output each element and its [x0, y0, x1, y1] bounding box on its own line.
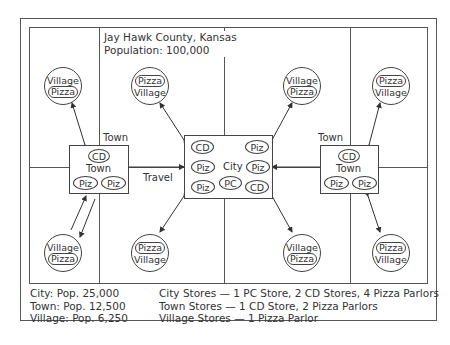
town-population: Town: Pop. 12,500 — [30, 300, 128, 313]
village-label: Village — [47, 75, 79, 86]
pizza-store: Pizza — [135, 242, 165, 254]
travel-label: Travel — [143, 172, 173, 184]
pizza-store: Piz — [246, 160, 270, 174]
village-population: Village: Pop. 6,250 — [30, 312, 128, 325]
village-label: Village — [47, 242, 79, 253]
cd-store: CD — [338, 149, 360, 163]
pizza-store: Piz — [191, 180, 215, 194]
cd-store: CD — [88, 149, 110, 163]
pizza-store: Piz — [191, 160, 215, 174]
pizza-store: Pizza — [135, 75, 165, 87]
pizza-store: Pizza — [48, 86, 78, 98]
village-bottom-left: Village Pizza — [44, 234, 82, 272]
town-left-outer-label: Town — [103, 132, 128, 144]
town-left: CD Town Piz Piz — [69, 145, 129, 194]
pizza-store: Piz — [352, 176, 377, 190]
city-population: City: Pop. 25,000 — [30, 287, 128, 300]
village-label: Village — [134, 254, 166, 265]
pizza-store: Pizza — [287, 253, 317, 265]
village-label: Village — [375, 87, 407, 98]
pizza-store: Piz — [245, 140, 269, 154]
city-label: City — [223, 161, 243, 173]
village-top-center-right: Village Pizza — [283, 67, 321, 105]
city: CD Piz Piz City Piz Piz PC CD — [184, 135, 273, 199]
town-right: CD Town Piz Piz — [320, 145, 379, 194]
town-label: Town — [336, 163, 361, 175]
village-label: Village — [375, 254, 407, 265]
cd-store: CD — [245, 180, 269, 194]
village-stores: Village Stores — 1 Pizza Parlor — [159, 312, 439, 325]
village-label: Village — [134, 87, 166, 98]
village-label: Village — [286, 242, 318, 253]
pizza-store: Piz — [73, 176, 98, 190]
cd-store: CD — [191, 140, 214, 154]
legend-stores: City Stores — 1 PC Store, 2 CD Stores, 4… — [159, 287, 439, 325]
village-bottom-center-right: Village Pizza — [283, 234, 321, 272]
village-label: Village — [286, 75, 318, 86]
town-stores: Town Stores — 1 CD Store, 2 Pizza Parlor… — [159, 300, 439, 313]
village-bottom-center-left: Pizza Village — [131, 234, 169, 272]
pc-store: PC — [219, 176, 242, 190]
pizza-store: Piz — [101, 176, 126, 190]
village-top-center-left: Pizza Village — [131, 67, 169, 105]
pizza-store: Pizza — [48, 253, 78, 265]
pizza-store: Piz — [324, 176, 349, 190]
pizza-store: Pizza — [376, 75, 406, 87]
pizza-store: Pizza — [287, 86, 317, 98]
town-label: Town — [86, 163, 111, 175]
village-top-left: Village Pizza — [44, 67, 82, 105]
village-top-right: Pizza Village — [372, 67, 410, 105]
village-bottom-right: Pizza Village — [372, 234, 410, 272]
legend-populations: City: Pop. 25,000 Town: Pop. 12,500 Vill… — [30, 287, 128, 325]
city-stores: City Stores — 1 PC Store, 2 CD Stores, 4… — [159, 287, 439, 300]
town-right-outer-label: Town — [318, 132, 343, 144]
pizza-store: Pizza — [376, 242, 406, 254]
